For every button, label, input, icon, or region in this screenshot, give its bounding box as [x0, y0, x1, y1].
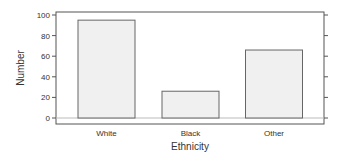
bar-white [78, 20, 135, 118]
y-axis-right-ticks [324, 15, 328, 118]
bar-other [246, 50, 303, 118]
y-tick-label: 40 [41, 73, 50, 82]
x-tick-label-white: White [96, 129, 117, 138]
y-axis: 020406080100 [37, 11, 56, 123]
x-axis-title: Ethnicity [171, 141, 209, 152]
y-tick-label: 0 [46, 114, 51, 123]
y-tick-label: 60 [41, 52, 50, 61]
y-tick-label: 20 [41, 93, 50, 102]
x-tick-label-other: Other [264, 129, 284, 138]
x-tick-label-black: Black [181, 129, 202, 138]
bars-group [78, 20, 303, 118]
y-tick-label: 80 [41, 32, 50, 41]
bar-chart: 020406080100 WhiteBlackOther Ethnicity N… [0, 0, 347, 162]
y-axis-title: Number [15, 50, 26, 86]
y-tick-label: 100 [37, 11, 51, 20]
bar-black [162, 91, 219, 118]
x-axis-labels: WhiteBlackOther [96, 129, 284, 138]
